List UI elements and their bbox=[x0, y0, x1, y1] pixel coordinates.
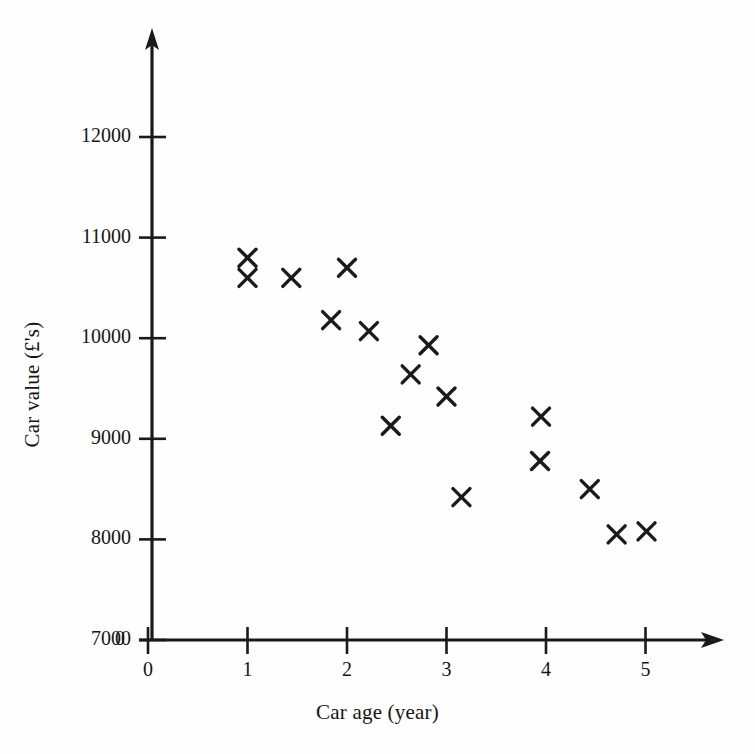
data-point-marker bbox=[239, 269, 256, 286]
axes bbox=[139, 28, 724, 648]
data-point-marker bbox=[402, 366, 419, 383]
axis-ticks bbox=[139, 137, 646, 654]
scatter-chart: Car value (£'s) Car age (year) 700080009… bbox=[0, 0, 755, 754]
data-point-marker bbox=[581, 481, 598, 498]
data-points bbox=[239, 249, 655, 543]
y-axis-label: Car value (£'s) bbox=[20, 235, 45, 535]
data-point-marker bbox=[532, 452, 549, 469]
data-point-marker bbox=[608, 526, 625, 543]
data-point-marker bbox=[360, 323, 377, 340]
y-tick-label: 10000 bbox=[41, 325, 131, 348]
data-point-marker bbox=[323, 312, 340, 329]
x-tick-label: 5 bbox=[626, 658, 666, 681]
x-tick-label: 2 bbox=[327, 658, 367, 681]
x-tick-label: 4 bbox=[526, 658, 566, 681]
y-tick-label: 12000 bbox=[41, 124, 131, 147]
data-point-marker bbox=[382, 417, 399, 434]
x-axis-label: Car age (year) bbox=[0, 700, 755, 725]
data-point-marker bbox=[283, 269, 300, 286]
x-tick-label: 1 bbox=[228, 658, 268, 681]
y-tick-label: 9000 bbox=[41, 426, 131, 449]
data-point-marker bbox=[453, 489, 470, 506]
data-point-marker bbox=[420, 337, 437, 354]
data-point-marker bbox=[239, 249, 256, 266]
origin-label: 0 bbox=[100, 627, 140, 650]
data-point-marker bbox=[438, 388, 455, 405]
data-point-marker bbox=[339, 259, 356, 276]
y-tick-label: 11000 bbox=[41, 225, 131, 248]
x-tick-label: 0 bbox=[128, 658, 168, 681]
y-tick-label: 8000 bbox=[41, 526, 131, 549]
data-point-marker bbox=[533, 408, 550, 425]
x-tick-label: 3 bbox=[427, 658, 467, 681]
data-point-marker bbox=[638, 523, 655, 540]
